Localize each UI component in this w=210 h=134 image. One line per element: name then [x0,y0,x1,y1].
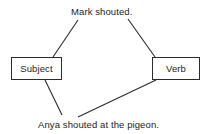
connector-mark-to-verb [128,19,155,57]
node-verb[interactable]: Verb [152,57,200,80]
node-verb-label: Verb [166,64,186,74]
example-sentence-bottom: Anya shouted at the pigeon. [38,120,159,130]
diagram-canvas: Mark shouted. Subject Verb Anya shouted … [0,0,210,134]
connector-verb-to-anya [78,80,156,117]
node-subject-label: Subject [20,64,52,74]
connector-subject-to-anya [45,80,62,115]
node-subject[interactable]: Subject [11,57,62,80]
example-sentence-top: Mark shouted. [71,7,133,17]
connector-mark-to-subject [53,20,78,57]
